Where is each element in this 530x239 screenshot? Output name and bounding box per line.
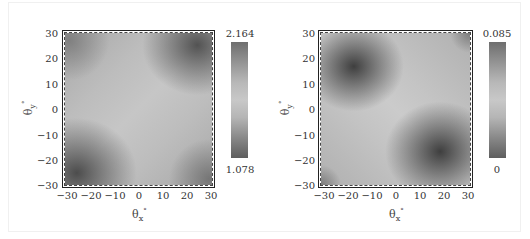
y-tick: 10 [289,79,315,90]
left-plot-frame [62,30,215,188]
right-colorbar [489,42,506,158]
x-axis-label: θx° [389,207,404,223]
x-tick: 30 [462,190,475,201]
x-tick: −30 [313,190,334,201]
y-tick: −30 [32,180,58,191]
x-tick: 20 [181,190,194,201]
x-tick: 0 [136,190,142,201]
x-tick: −10 [104,190,125,201]
left-heatmap [65,33,212,185]
y-tick: 20 [289,53,315,64]
right-plot-frame [318,30,473,188]
x-tick: 20 [438,190,451,201]
x-tick: −20 [80,190,101,201]
x-tick: 10 [157,190,170,201]
y-tick: 20 [32,53,58,64]
x-tick: −10 [361,190,382,201]
colorbar-min-label: 0 [494,164,500,175]
y-tick: −10 [32,130,58,141]
x-tick: 30 [205,190,218,201]
left-colorbar [231,42,248,158]
x-tick: −30 [56,190,77,201]
colorbar-min-label: 1.078 [226,164,255,175]
y-tick: 10 [32,79,58,90]
y-tick: −20 [32,155,58,166]
y-tick: −10 [289,130,315,141]
y-tick: −30 [289,180,315,191]
x-tick: 0 [393,190,399,201]
colorbar-max-label: 2.164 [226,28,255,39]
x-tick: 10 [414,190,427,201]
x-axis-label: θx° [132,207,147,223]
right-heatmap [321,33,470,185]
y-tick: 30 [32,28,58,39]
colorbar-max-label: 0.085 [483,28,512,39]
y-axis-label: θy° [21,101,37,116]
y-tick: −20 [289,155,315,166]
x-tick: −20 [337,190,358,201]
y-tick: 30 [289,28,315,39]
y-axis-label: θy° [278,101,294,116]
